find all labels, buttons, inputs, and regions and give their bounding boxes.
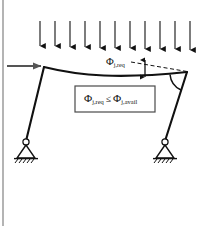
phi-required-symbol: Φ [84,92,92,104]
rotation-demand-label: Φj,req [106,57,125,68]
distributed-load-arrow-group [40,21,190,50]
left-pinned-support [14,139,38,163]
less-or-equal-operator: ≤ [104,94,113,104]
phi-symbol: Φ [106,56,114,67]
right-column [165,72,187,141]
rotation-check-inequality-label: Φj,req≤Φj,avail [84,93,137,105]
frame-diagram-canvas [0,0,209,226]
joint-rotation-arc [170,75,181,91]
phi-subscript: j,req [114,62,125,68]
phi-required-subscript: j,req [92,98,104,105]
undeformed-beam-dashed-line [131,62,187,72]
structural-frame-figure: Φj,req Φj,req≤Φj,avail [0,0,209,226]
left-column [26,67,44,141]
phi-available-subscript: j,avail [121,98,137,105]
right-pinned-support [153,139,177,163]
